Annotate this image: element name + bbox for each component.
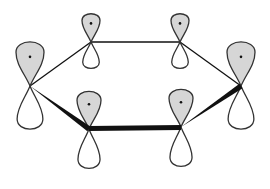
upper-lobe-shaded [82,14,100,42]
p-orbital-c2 [82,14,100,69]
nucleus-dot [180,101,183,104]
nucleus-dot [240,56,243,59]
p-orbitals [16,14,255,169]
front-bonds [30,84,243,132]
orbital-canvas [0,0,270,189]
lower-lobe [78,129,100,168]
nucleus-dot [29,56,32,59]
p-orbital-c4 [227,42,255,129]
nucleus-dot [179,22,182,25]
bond-c6-c5 [89,128,181,129]
p-orbital-c3 [171,14,189,69]
lower-lobe [170,127,192,166]
upper-lobe-shaded [171,14,189,42]
benzene-orbital-diagram: Benzene p-orbitals (pi system) [0,0,270,189]
nucleus-dot [90,22,93,25]
p-orbital-c1 [16,42,44,129]
back-bonds [30,42,241,86]
nucleus-dot [88,103,91,106]
